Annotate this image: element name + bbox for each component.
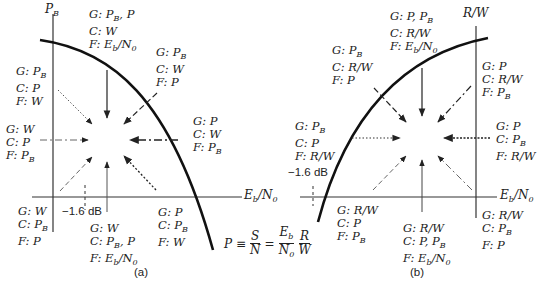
snr-formula: P ≡ S N = Eb N0 R W [224, 226, 311, 262]
panel-b-label-bottom: G: R/W C: P, PB F: Eb/N0 [403, 222, 451, 270]
panel-b-label-upper-right: G: P C: R/W F: PB [482, 60, 523, 103]
formula-frac-r-over-w: R W [298, 230, 310, 257]
panel-a-label-lower-left: G: W C: PB F: P [18, 205, 48, 248]
panel-a-label-bottom: G: W C: PB, P F: Eb/N0 [90, 222, 138, 270]
panel-a-label-top: G: PB, P C: W F: Eb/N0 [89, 8, 137, 56]
panel-b-x-axis-label: Eb/N0 [500, 188, 534, 204]
formula-frac-s-over-n: S N [250, 230, 261, 257]
panel-a-caption: (a) [134, 266, 148, 278]
panel-a-label-upper-right: G: PB C: W F: P [156, 46, 186, 89]
panel-b-label-top: G: P, PB C: R/W F: Eb/N0 [390, 10, 438, 58]
panel-b-label-upper-left: G: PB C: R/W F: P [332, 44, 373, 87]
panel-b-shannon-limit-label: −1.6 dB [288, 166, 328, 178]
formula-frac-eb-over-n0: Eb N0 [279, 226, 295, 262]
panel-a-label-right: G: P C: W F: PB [193, 115, 222, 158]
panel-b-arrow-lower-right [438, 156, 472, 190]
panel-b-label-lower-left: G: R/W C: P F: PB [337, 204, 378, 247]
panel-a-y-axis-label: PB [45, 2, 59, 18]
panel-b-arrow-upper-left [374, 88, 406, 122]
panel-a-arrow-lower-right [124, 156, 156, 190]
panel-a-arrow-upper-left [58, 90, 92, 124]
panel-b-label-lower-right: G: R/W C: PB F: P [482, 209, 523, 252]
panel-a-shannon-limit-label: −1.6 dB [62, 205, 102, 217]
panel-a-x-axis-label: Eb/N0 [244, 188, 278, 204]
panel-a-arrow-lower-left [60, 157, 92, 191]
panel-b-caption: (b) [410, 266, 424, 278]
formula-equals: = [264, 237, 274, 251]
panel-a-label-left: G: W C: P F: PB [6, 123, 35, 166]
panel-b-label-right: G: P C: PB F: R/W [496, 120, 535, 163]
formula-lhs: P ≡ [224, 237, 246, 251]
panel-a-label-upper-left: G: PB C: P F: W [16, 65, 46, 108]
panel-a-label-lower-right: G: P C: PB F: W [158, 206, 188, 249]
panel-b-arrow-lower-left [373, 156, 406, 190]
panel-b-label-left: G: PB C: P F: R/W [295, 120, 334, 163]
panel-b-arrow-upper-right [438, 86, 471, 122]
panel-b-y-axis-label: R/W [463, 6, 488, 20]
